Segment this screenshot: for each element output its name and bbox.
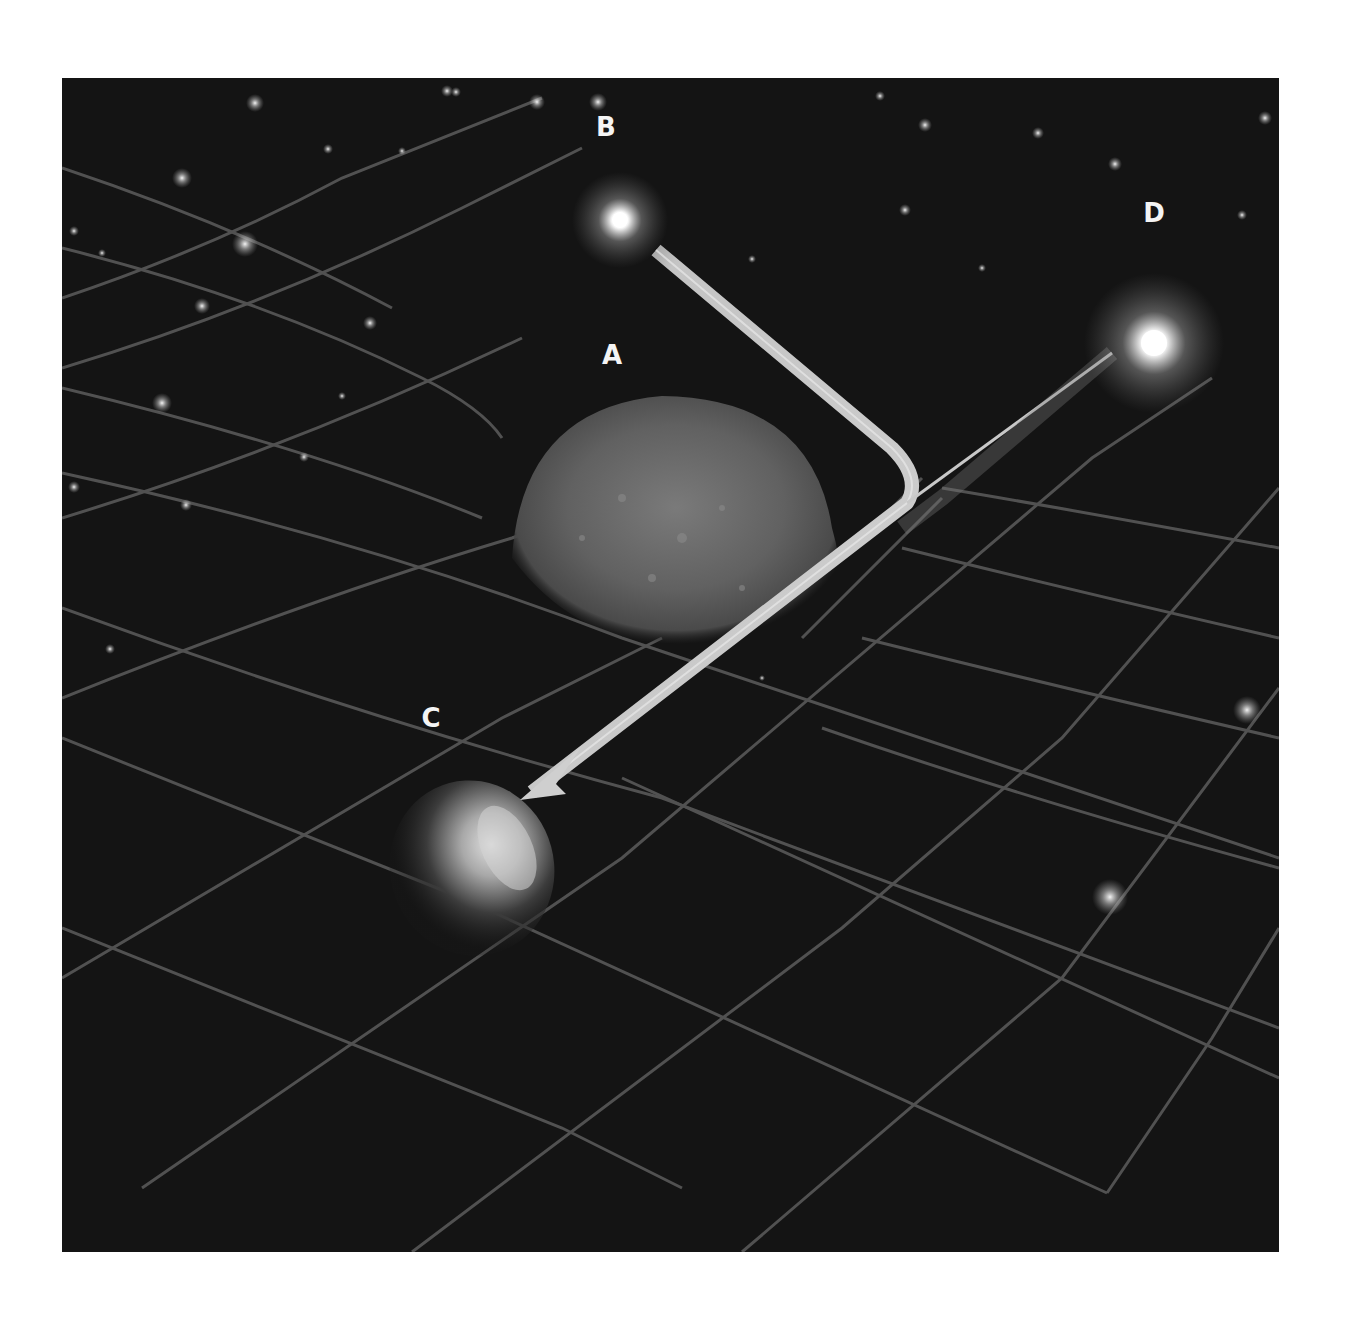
- diagram-frame: B A D C: [62, 78, 1279, 1252]
- apparent-sightline: [902, 353, 1112, 528]
- label-d: D: [1143, 200, 1165, 226]
- star-b: [572, 172, 668, 268]
- spacetime-scene: [62, 78, 1279, 1252]
- label-c: C: [421, 705, 440, 731]
- star-d: [1084, 273, 1224, 413]
- planet-a: [512, 396, 840, 644]
- label-a: A: [602, 342, 622, 368]
- label-b: B: [596, 114, 616, 140]
